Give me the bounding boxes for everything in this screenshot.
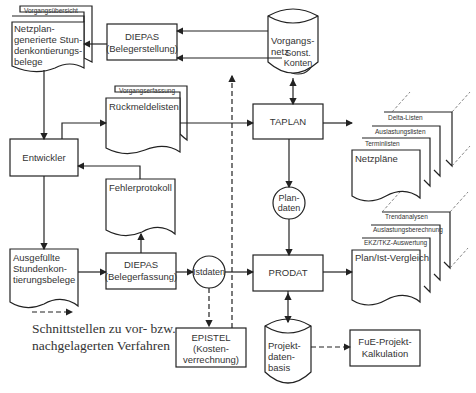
rueckmeldelisten-document — [106, 86, 187, 154]
stack-terminlisten: Terminlisten — [365, 140, 400, 147]
legend-line1: Schnittstellen zu vor- bzw. — [32, 320, 176, 337]
legend: Schnittstellen zu vor- bzw. nachgelagert… — [32, 320, 176, 354]
vorgangsnetz-line1: Vorgangs- — [271, 35, 314, 46]
netzplan-belege-line3: denkontierungs- — [14, 45, 82, 56]
plandaten-line2: daten — [278, 203, 301, 213]
projektdatenbasis-line1: Projekt- — [268, 340, 301, 351]
fue-line2: Kalkulation — [362, 348, 408, 359]
vorgangsnetz-line2: netz — [271, 46, 289, 57]
tab-vorgangserfassung: Vorgangserfassung — [119, 87, 175, 95]
sonst-konten-line2: Konten — [284, 58, 313, 68]
tab-vorgangsuebersicht: Vorgangsübersicht — [24, 7, 78, 15]
istdaten-label: Istdaten — [193, 267, 225, 277]
diepas-erstellung-title: DIEPAS — [125, 31, 159, 42]
epistel-line2: (Kosten- — [193, 343, 229, 354]
legend-line2: nachgelagerten Verfahren — [32, 337, 176, 354]
stack-auslastungsberechnung: Auslastungsberechnung — [373, 226, 443, 234]
rueckmeldelisten-label: Rückmeldelisten — [109, 101, 179, 112]
sonst-konten-line1: Sonst. — [285, 48, 311, 58]
ausgefuellte-line2: Stundenkon- — [13, 263, 67, 274]
ausgefuellte-line1: Ausgefüllte — [13, 252, 60, 263]
diepas-belegerstellung-box — [107, 24, 177, 60]
stack-trendanalysen: Trendanalysen — [385, 213, 428, 221]
taplan-label: TAPLAN — [270, 116, 306, 127]
diepas-erstellung-sub: (Belegerstellung) — [106, 43, 178, 54]
diepas-erfassung-title: DIEPAS — [124, 259, 158, 270]
plandaten-line1: Plan- — [278, 193, 299, 203]
epistel-title: EPISTEL — [191, 332, 230, 343]
entwickler-label: Entwickler — [22, 152, 65, 163]
epistel-line3: verrechnung) — [183, 354, 239, 365]
netzplan-belege-line1: Netzplan- — [14, 23, 55, 34]
stack-auslastungslisten: Auslastungslisten — [375, 128, 426, 136]
diepas-erfassung-sub: (Belegerfassung) — [105, 271, 177, 282]
netzplan-belege-line4: belege — [14, 56, 43, 67]
netzplan-belege-line2: generierte Stun- — [14, 34, 82, 45]
stack-delta-listen: Delta-Listen — [388, 114, 423, 121]
projektdatenbasis-line2: daten- — [268, 351, 295, 362]
fehlerprotokoll-label: Fehlerprotokoll — [109, 182, 172, 193]
fue-line1: FuE-Projekt- — [358, 336, 411, 347]
prodat-label: PRODAT — [269, 267, 308, 278]
plan-ist-label: Plan/Ist-Vergleich — [355, 252, 429, 263]
stack-ekz-tkz: EKZ/TKZ-Auswertung — [364, 239, 428, 247]
projektdatenbasis-line3: basis — [268, 362, 290, 373]
netzplaene-label: Netzpläne — [355, 153, 398, 164]
ausgefuellte-line3: tierungsbelege — [13, 274, 75, 285]
